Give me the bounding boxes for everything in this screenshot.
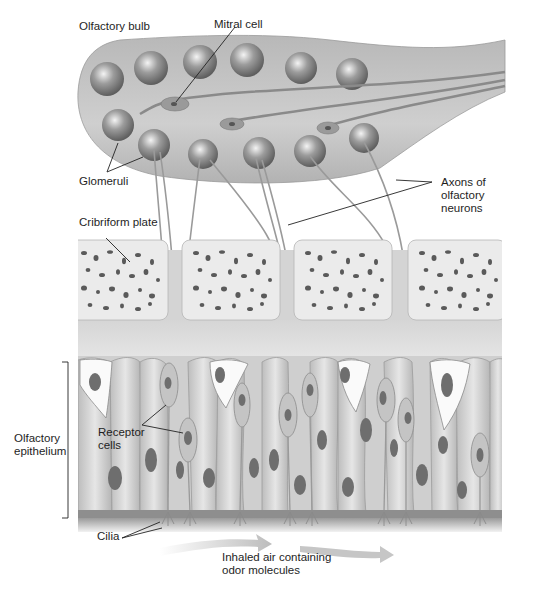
label-glomeruli: Glomeruli bbox=[79, 175, 128, 187]
label-inhaled-air-1: Inhaled air containing bbox=[222, 551, 331, 563]
label-cribriform-plate: Cribriform plate bbox=[79, 216, 158, 228]
label-receptor-cells-1: Receptor bbox=[98, 426, 145, 438]
label-olfactory-epithelium-1: Olfactory bbox=[14, 432, 60, 444]
label-axons-2: olfactory bbox=[441, 189, 484, 201]
cribriform-plate bbox=[70, 240, 506, 356]
label-olfactory-epithelium-2: epithelium bbox=[14, 445, 66, 457]
label-mitral-cell: Mitral cell bbox=[214, 18, 263, 30]
label-inhaled-air-2: odor molecules bbox=[222, 564, 300, 576]
label-receptor-cells-2: cells bbox=[98, 439, 121, 451]
label-cilia: Cilia bbox=[97, 530, 119, 542]
label-axons-1: Axons of bbox=[441, 176, 486, 188]
olfactory-bulb bbox=[78, 35, 505, 183]
label-axons-3: neurons bbox=[441, 202, 483, 214]
olfactory-diagram bbox=[0, 0, 534, 590]
label-olfactory-bulb: Olfactory bulb bbox=[79, 20, 150, 32]
